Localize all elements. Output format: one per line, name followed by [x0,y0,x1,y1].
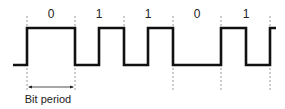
bit-waveform-diagram: 0 1 1 0 1 Bit period [0,0,285,109]
signal-waveform [13,28,276,65]
bit-label-0: 0 [48,7,55,21]
bit-period-arrow [28,86,74,89]
bit-label-1: 1 [96,7,103,21]
bit-label-4: 1 [243,7,250,21]
bit-period-caption: Bit period [25,93,71,105]
bit-label-2: 1 [145,7,152,21]
bit-label-3: 0 [194,7,201,21]
